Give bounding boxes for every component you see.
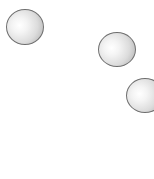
- ball-2: [98, 32, 136, 67]
- scene-canvas: [0, 0, 154, 179]
- ball-1: [6, 9, 44, 45]
- ball-3: [126, 78, 154, 113]
